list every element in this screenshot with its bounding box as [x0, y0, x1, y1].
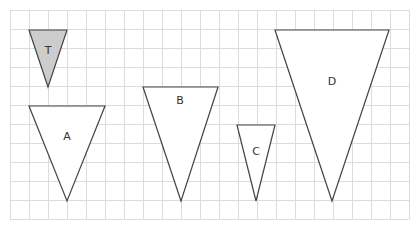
- triangle-shape: [29, 106, 105, 201]
- grid-canvas: TABCD: [0, 0, 411, 228]
- triangle-label: D: [328, 75, 336, 88]
- triangle-label: A: [63, 130, 71, 143]
- triangles: TABCD: [29, 30, 389, 201]
- triangle-label: C: [252, 145, 260, 158]
- triangle-t: T: [29, 30, 67, 87]
- grid-diagram: TABCD: [0, 0, 411, 228]
- triangle-a: A: [29, 106, 105, 201]
- triangle-label: T: [44, 44, 52, 57]
- triangle-shape: [29, 30, 67, 87]
- triangle-label: B: [176, 94, 184, 107]
